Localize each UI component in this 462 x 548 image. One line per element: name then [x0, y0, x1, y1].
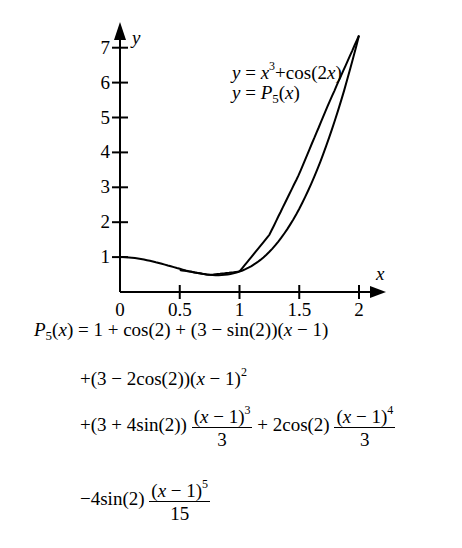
legend-entry-p5: y = P5(x) — [232, 83, 342, 109]
y-tick-label: 7 — [101, 37, 111, 58]
y-tick-label: 3 — [101, 176, 111, 197]
y-tick-label: 2 — [101, 211, 111, 232]
formula-line-1: P5(x) = 1 + cos(2) + (3 − sin(2))(x − 1) — [34, 320, 328, 342]
chart-plot: 00.511.52 1234567 x y — [0, 0, 462, 320]
y-tick-label: 5 — [101, 107, 111, 128]
formula-line-2: +(3 − 2cos(2))(x − 1)2 — [80, 366, 247, 388]
x-tick-label: 0.5 — [168, 299, 192, 320]
fraction-quartic: (x − 1)4 3 — [334, 404, 395, 449]
y-tick-label: 4 — [101, 141, 111, 162]
x-tick-label: 0 — [115, 299, 125, 320]
fraction-quintic: (x − 1)5 15 — [149, 478, 210, 523]
legend-entry-f: y = x3+cos(2x) — [232, 56, 342, 83]
x-tick-label: 1 — [235, 299, 245, 320]
legend: y = x3+cos(2x) y = P5(x) — [232, 56, 342, 109]
x-tick-label: 1.5 — [287, 299, 311, 320]
x-axis-arrow-icon — [370, 286, 386, 298]
x-ticks: 00.511.52 — [115, 285, 364, 320]
formula-line-4: −4sin(2) (x − 1)5 15 — [80, 478, 210, 523]
formula-line-3: +(3 + 4sin(2)) (x − 1)3 3 + 2cos(2) (x −… — [80, 404, 395, 449]
x-axis-label: x — [375, 263, 385, 284]
y-axis-arrow-icon — [114, 22, 126, 40]
fraction-cubic: (x − 1)3 3 — [192, 404, 253, 449]
y-tick-label: 1 — [101, 246, 111, 267]
y-axis-label: y — [130, 27, 141, 48]
y-ticks: 1234567 — [101, 37, 129, 267]
y-tick-label: 6 — [101, 72, 111, 93]
x-tick-label: 2 — [354, 299, 364, 320]
